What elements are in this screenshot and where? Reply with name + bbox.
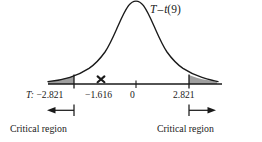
axis-tick-label-plus-2-821: 2.821 — [173, 90, 195, 100]
axis-tick-value-minus-1-616: −1.616 — [85, 89, 112, 100]
right-tail-shaded-area — [189, 75, 217, 84]
axis-tick-value-zero: 0 — [130, 89, 135, 100]
axis-variable-prefix: T: — [26, 89, 34, 100]
axis-tick-label-zero: 0 — [130, 90, 135, 100]
critical-region-label-left: Critical region — [10, 124, 67, 134]
critical-region-label-right: Critical region — [157, 124, 214, 134]
t-distribution-figure: T–t(9) T: −2.821 −1.616 0 2.821 Critical… — [0, 0, 262, 142]
density-curve — [48, 1, 218, 82]
axis-tick-label-minus-2-821: T: −2.821 — [26, 90, 63, 100]
distribution-label: T–t(9) — [150, 4, 181, 16]
axis-tick-value-minus-2-821: −2.821 — [36, 89, 63, 100]
distribution-label-close-paren: ) — [177, 3, 181, 15]
distribution-plot — [0, 0, 262, 142]
left-critical-region-arrow — [47, 105, 74, 117]
axis-tick-value-plus-2-821: 2.821 — [173, 89, 195, 100]
test-statistic-x-marker — [98, 76, 105, 82]
right-critical-region-arrow — [189, 105, 216, 117]
axis-tick-label-minus-1-616: −1.616 — [85, 90, 112, 100]
distribution-label-relation: – — [156, 3, 164, 15]
